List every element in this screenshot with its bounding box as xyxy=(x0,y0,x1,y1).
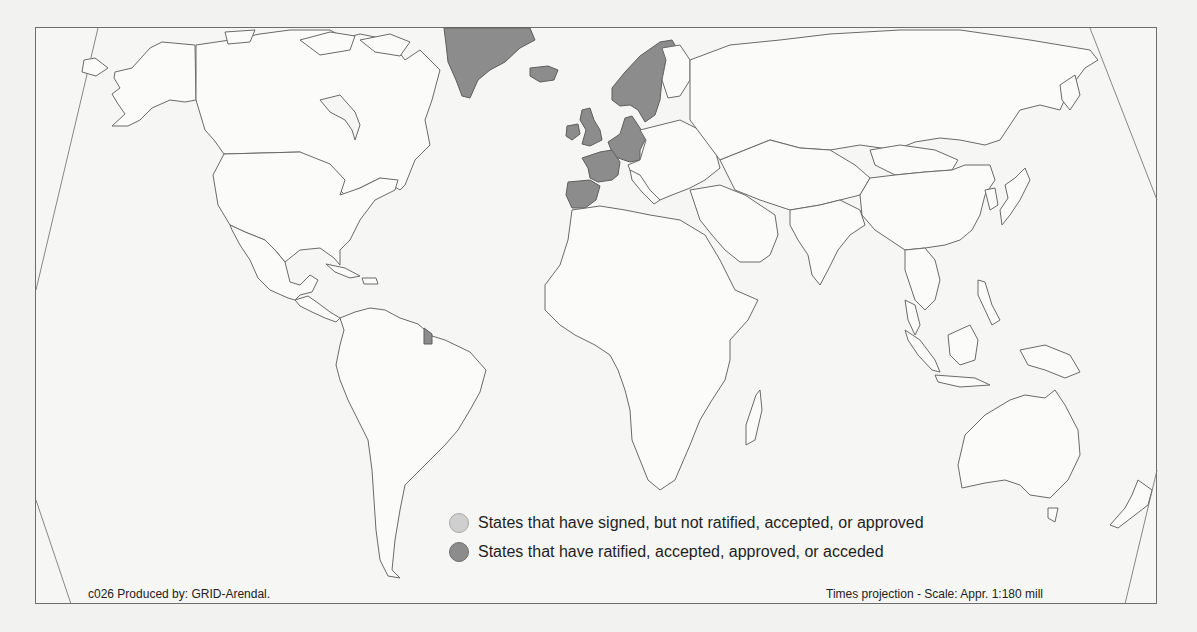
region-japan xyxy=(1000,168,1030,225)
region-ireland xyxy=(566,124,580,140)
region-philippines xyxy=(978,280,1000,325)
region-cuba xyxy=(326,264,360,278)
legend-item-signed: States that have signed, but not ratifie… xyxy=(449,508,924,537)
region-china xyxy=(860,165,995,250)
region-tasmania xyxy=(1048,508,1058,522)
region-hispaniola xyxy=(362,278,378,284)
region-korea xyxy=(985,188,998,210)
producer-credit: c026 Produced by: GRID-Arendal. xyxy=(88,587,270,601)
region-french-guiana xyxy=(424,328,432,344)
legend: States that have signed, but not ratifie… xyxy=(449,508,924,566)
legend-label-signed: States that have signed, but not ratifie… xyxy=(478,514,924,532)
legend-label-ratified: States that have ratified, accepted, app… xyxy=(478,543,884,561)
region-iceland xyxy=(530,66,558,82)
region-madagascar xyxy=(746,390,762,445)
region-malay-peninsula xyxy=(905,300,920,335)
region-new-guinea xyxy=(1020,345,1080,378)
projection-scale: Times projection - Scale: Appr. 1:180 mi… xyxy=(826,587,1043,601)
region-new-zealand xyxy=(1110,480,1152,528)
region-borneo xyxy=(948,325,978,365)
region-indochina xyxy=(905,248,940,310)
region-java xyxy=(935,375,990,387)
region-central-america xyxy=(295,296,340,322)
projection-edge-left xyxy=(36,28,98,604)
ratified-swatch-icon xyxy=(449,542,469,562)
signed-swatch-icon xyxy=(449,513,469,533)
region-france xyxy=(582,150,620,182)
region-india xyxy=(790,200,865,285)
region-sumatra xyxy=(905,330,940,372)
region-greenland xyxy=(444,28,535,98)
region-australia xyxy=(958,390,1080,498)
region-finland xyxy=(662,45,690,98)
region-russia xyxy=(690,30,1098,160)
region-alaska xyxy=(82,42,196,126)
region-iberia xyxy=(566,180,600,208)
legend-item-ratified: States that have ratified, accepted, app… xyxy=(449,537,924,566)
region-uk xyxy=(580,108,602,146)
